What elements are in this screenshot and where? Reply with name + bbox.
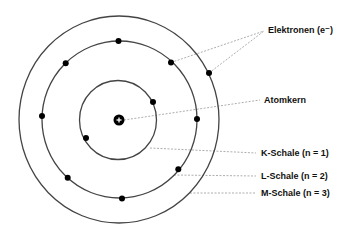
leader-line-electrons bbox=[171, 31, 264, 63]
electron-icon bbox=[116, 38, 122, 44]
leader-line-nucleus bbox=[124, 100, 260, 120]
leader-line-k-shell bbox=[150, 148, 256, 153]
label-electrons: Elektronen (e⁻) bbox=[268, 25, 333, 35]
electron-icon bbox=[65, 175, 71, 181]
electron-icon bbox=[83, 135, 89, 141]
electron-icon bbox=[206, 70, 212, 76]
label-k-shell: K-Schale (n = 1) bbox=[261, 148, 329, 158]
label-m-shell: M-Schale (n = 3) bbox=[261, 188, 330, 198]
leader-line-electrons bbox=[209, 31, 264, 73]
electron-icon bbox=[119, 196, 125, 202]
nucleus-icon bbox=[114, 115, 125, 126]
atom-diagram: Elektronen (e⁻) Atomkern K-Schale (n = 1… bbox=[0, 0, 359, 233]
electron-icon bbox=[150, 99, 156, 105]
label-l-shell: L-Schale (n = 2) bbox=[261, 171, 328, 181]
electron-icon bbox=[168, 60, 174, 66]
label-nucleus: Atomkern bbox=[264, 95, 306, 105]
electron-icon bbox=[63, 60, 69, 66]
leader-line-l-shell bbox=[174, 175, 256, 176]
electron-icon bbox=[39, 113, 45, 119]
electron-icon bbox=[194, 116, 200, 122]
electron-icon bbox=[175, 166, 181, 172]
